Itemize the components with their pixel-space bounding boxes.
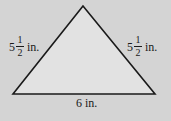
left-side-denominator: 2 xyxy=(18,48,23,58)
triangle-diagram: 5 1 2 in. 5 1 2 in. 6 in. xyxy=(0,0,171,121)
right-side-whole: 5 xyxy=(127,41,133,53)
right-side-fraction: 1 2 xyxy=(134,35,142,58)
left-side-fraction: 1 2 xyxy=(16,35,24,58)
left-side-label: 5 1 2 in. xyxy=(9,35,39,58)
right-side-denominator: 2 xyxy=(136,48,141,58)
left-side-whole: 5 xyxy=(9,41,15,53)
right-side-numerator: 1 xyxy=(135,35,142,45)
left-side-numerator: 1 xyxy=(17,35,24,45)
left-side-unit: in. xyxy=(27,41,39,53)
base-label: 6 in. xyxy=(76,97,97,109)
right-side-label: 5 1 2 in. xyxy=(127,35,157,58)
right-side-unit: in. xyxy=(145,41,157,53)
